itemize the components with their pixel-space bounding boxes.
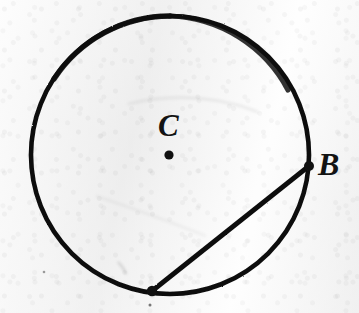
center-point-marker (164, 150, 173, 159)
stray-ink-speck-left (43, 271, 46, 274)
chord-lower-endpoint-marker (147, 286, 157, 296)
stray-ink-speck (149, 304, 152, 307)
circle-diagram-canvas (0, 0, 359, 313)
point-label-b: B (318, 148, 339, 180)
geometry-figure: C B (0, 0, 359, 313)
point-b-marker (304, 161, 314, 171)
center-label-c: C (158, 110, 179, 141)
